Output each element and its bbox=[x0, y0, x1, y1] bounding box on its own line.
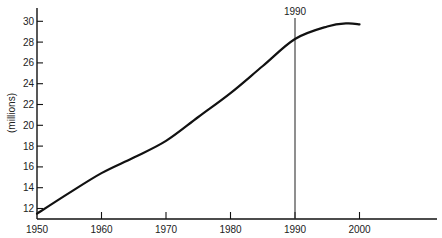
x-tick-label: 2000 bbox=[348, 224, 371, 235]
y-tick-label: 14 bbox=[23, 182, 35, 193]
y-axis-label: (millions) bbox=[6, 93, 17, 133]
y-tick-label: 26 bbox=[23, 57, 35, 68]
population-line bbox=[37, 23, 360, 213]
y-tick-label: 30 bbox=[23, 16, 35, 27]
y-tick-label: 20 bbox=[23, 120, 35, 131]
x-tick-label: 1960 bbox=[90, 224, 113, 235]
x-axis-ticks: 195019601970198019902000 bbox=[26, 212, 371, 235]
y-tick-label: 28 bbox=[23, 37, 35, 48]
line-chart: (millions) 12141618202224262830 19501960… bbox=[0, 0, 442, 238]
x-tick-label: 1950 bbox=[26, 224, 49, 235]
y-axis-ticks: 12141618202224262830 bbox=[23, 16, 43, 214]
x-tick-label: 1980 bbox=[219, 224, 242, 235]
y-tick-label: 22 bbox=[23, 99, 35, 110]
y-tick-label: 24 bbox=[23, 78, 35, 89]
y-tick-label: 18 bbox=[23, 141, 35, 152]
x-tick-label: 1970 bbox=[155, 224, 178, 235]
marker-label-1990: 1990 bbox=[284, 6, 307, 17]
y-tick-label: 16 bbox=[23, 161, 35, 172]
x-tick-label: 1990 bbox=[284, 224, 307, 235]
y-tick-label: 12 bbox=[23, 203, 35, 214]
